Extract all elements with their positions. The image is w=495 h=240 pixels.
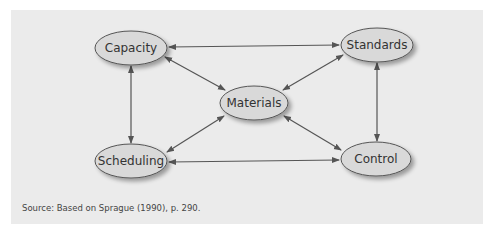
node-scheduling: Scheduling	[95, 144, 167, 178]
node-label-control: Control	[354, 152, 397, 166]
node-standards: Standards	[341, 28, 413, 62]
edge-standards-materials	[283, 55, 343, 90]
node-capacity: Capacity	[95, 31, 167, 65]
edge-capacity-materials	[165, 57, 225, 90]
node-control: Control	[341, 142, 411, 176]
edge-capacity-standards	[169, 45, 339, 47]
edge-control-materials	[284, 116, 341, 150]
node-label-scheduling: Scheduling	[98, 154, 164, 168]
edge-scheduling-control	[169, 160, 339, 162]
node-label-materials: Materials	[226, 96, 281, 110]
node-label-capacity: Capacity	[105, 41, 157, 55]
node-materials: Materials	[220, 86, 288, 120]
node-label-standards: Standards	[347, 38, 408, 52]
edge-scheduling-materials	[167, 116, 224, 152]
source-caption: Source: Based on Sprague (1990), p. 290.	[22, 203, 200, 213]
